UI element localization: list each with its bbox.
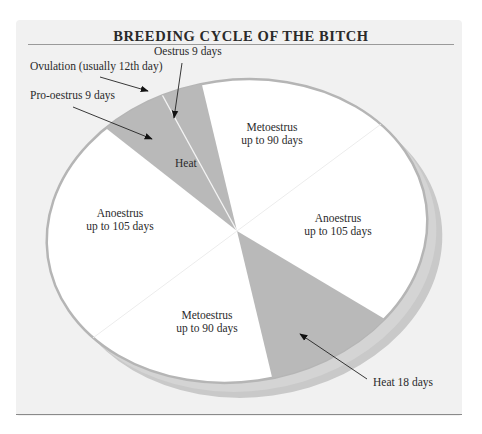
callout-heat-18: Heat 18 days	[373, 376, 433, 389]
segment-label-metoestrus-top: Metoestrus up to 90 days	[222, 121, 322, 147]
callout-ovulation: Ovulation (usually 12th day)	[30, 60, 163, 73]
segment-label-anoestrus-right: Anoestrus up to 105 days	[288, 212, 388, 238]
segment-label-metoestrus-bottom: Metoestrus up to 90 days	[157, 309, 257, 335]
bottom-divider	[16, 414, 462, 415]
segment-label-anoestrus-left: Anoestrus up to 105 days	[70, 207, 170, 233]
callout-oestrus: Oestrus 9 days	[154, 45, 222, 58]
heat-wedge-label: Heat	[175, 157, 197, 170]
callout-pro-oestrus: Pro-oestrus 9 days	[30, 89, 115, 102]
